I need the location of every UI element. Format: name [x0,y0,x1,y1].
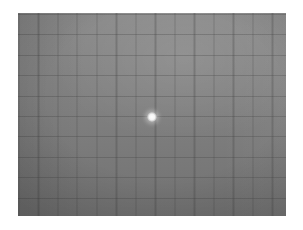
grid-photo [18,13,286,216]
light-spot [147,112,157,122]
